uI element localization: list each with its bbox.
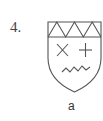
shield-outline — [48, 22, 101, 92]
plus-icon — [79, 43, 92, 57]
zigzag-chief — [48, 22, 101, 37]
saltire-icon — [57, 44, 68, 56]
shield-diagram — [0, 0, 103, 121]
wavy-line — [62, 66, 90, 72]
figure-caption: a — [68, 100, 75, 112]
